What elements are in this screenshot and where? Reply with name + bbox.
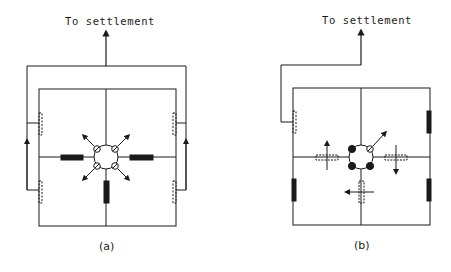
closed-valve (348, 145, 355, 152)
outlet-label-a: To settlement (65, 15, 155, 27)
diagram-b (281, 32, 431, 225)
solid-inlet (427, 179, 431, 201)
open-valve (94, 163, 101, 170)
open-pipe (130, 155, 153, 160)
open-valve (112, 163, 119, 170)
closed-valve (366, 162, 373, 169)
diagram-a (27, 33, 186, 226)
closed-valve (348, 162, 355, 169)
open-valve (367, 146, 374, 153)
caption-b: (b) (354, 239, 370, 252)
solid-inlet (427, 111, 431, 133)
solid-inlet (292, 179, 296, 201)
open-pipe (104, 181, 109, 203)
outlet-label-b: To settlement (322, 14, 412, 26)
open-valve (112, 146, 119, 153)
open-valve (94, 146, 101, 153)
diagram-canvas (0, 0, 451, 272)
caption-a: (a) (99, 240, 114, 253)
open-pipe (61, 155, 83, 160)
